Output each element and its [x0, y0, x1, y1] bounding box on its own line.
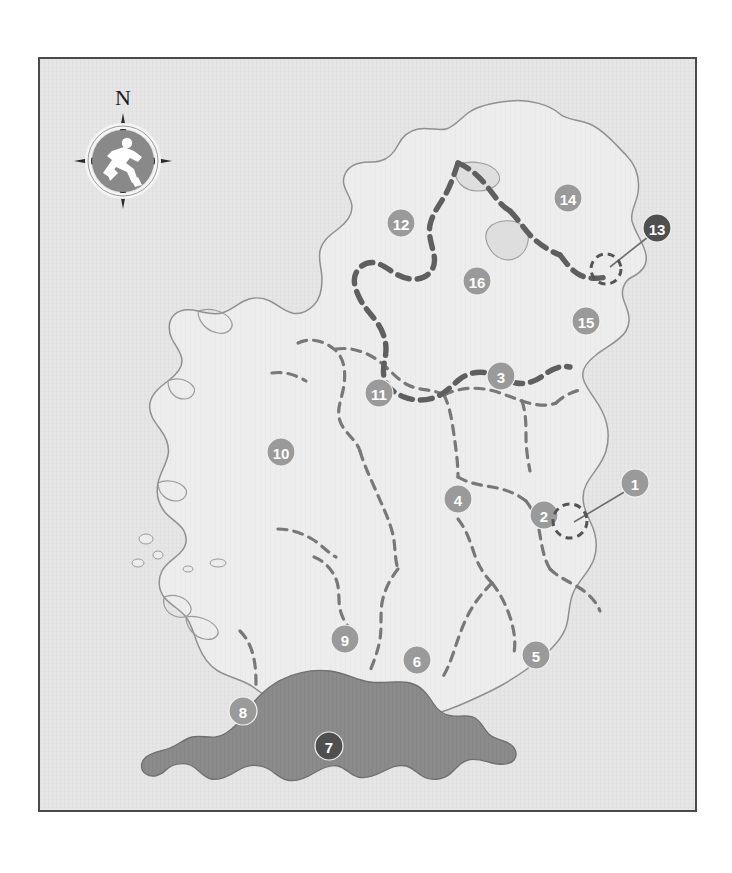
map-marker-10[interactable]: 10: [267, 438, 295, 466]
map-marker-9[interactable]: 9: [331, 625, 359, 653]
map-marker-14[interactable]: 14: [554, 184, 582, 212]
marker-label-5: 5: [532, 648, 540, 665]
map-marker-8[interactable]: 8: [229, 697, 257, 725]
marker-label-4: 4: [454, 492, 463, 509]
marker-label-3: 3: [497, 369, 505, 386]
map-marker-3[interactable]: 3: [487, 362, 515, 390]
marker-label-7: 7: [325, 739, 333, 756]
marker-label-13: 13: [649, 221, 666, 238]
marker-label-10: 10: [273, 445, 290, 462]
compass-rose: N: [68, 87, 178, 212]
marker-label-11: 11: [371, 386, 387, 403]
map-marker-11[interactable]: 11: [365, 379, 393, 407]
marker-label-9: 9: [341, 632, 349, 649]
map-marker-12[interactable]: 12: [387, 209, 415, 237]
map-marker-1[interactable]: 1: [621, 469, 649, 497]
map-marker-13[interactable]: 13: [643, 214, 671, 242]
marker-label-15: 15: [578, 314, 595, 331]
marker-label-6: 6: [413, 653, 421, 670]
marker-label-2: 2: [540, 508, 548, 525]
map-figure: 12345678910111213141516 N: [38, 57, 697, 812]
map-marker-6[interactable]: 6: [403, 646, 431, 674]
map-marker-16[interactable]: 16: [463, 267, 491, 295]
map-marker-7[interactable]: 7: [315, 732, 343, 760]
map-marker-4[interactable]: 4: [444, 485, 472, 513]
marker-label-8: 8: [239, 704, 247, 721]
map-marker-5[interactable]: 5: [522, 641, 550, 669]
map-marker-15[interactable]: 15: [572, 307, 600, 335]
compass-north-label: N: [115, 87, 131, 109]
marker-label-1: 1: [631, 476, 639, 493]
marker-label-14: 14: [560, 191, 577, 208]
marker-label-16: 16: [469, 274, 486, 291]
marker-label-12: 12: [393, 216, 410, 233]
